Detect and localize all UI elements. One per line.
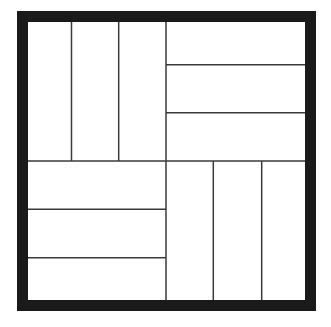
- parquet-diagram: [0, 0, 331, 327]
